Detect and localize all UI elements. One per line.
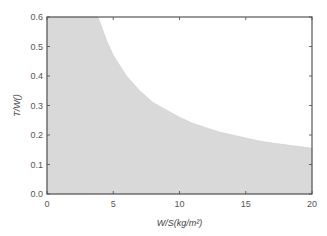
y-tick-label: 0.1 — [30, 160, 43, 170]
y-tick-label: 0.5 — [30, 42, 43, 52]
x-tick-label: 10 — [174, 199, 184, 209]
y-tick-label: 0.0 — [30, 189, 43, 199]
chart: 05101520 0.00.10.20.30.40.50.6 W/S(kg/m²… — [0, 0, 327, 236]
plot-area — [47, 17, 312, 194]
y-tick-label: 0.3 — [30, 101, 43, 111]
x-tick-label: 15 — [241, 199, 251, 209]
x-tick-label: 5 — [111, 199, 116, 209]
y-tick-label: 0.4 — [30, 71, 43, 81]
x-tick-labels: 05101520 — [44, 199, 317, 209]
x-axis-label: W/S(kg/m²) — [157, 218, 203, 228]
x-tick-label: 20 — [307, 199, 317, 209]
y-tick-labels: 0.00.10.20.30.40.50.6 — [30, 12, 43, 199]
x-tick-label: 0 — [44, 199, 49, 209]
y-tick-label: 0.2 — [30, 130, 43, 140]
shaded-feasible-region — [47, 17, 312, 194]
y-tick-label: 0.6 — [30, 12, 43, 22]
y-axis-label: T/W() — [12, 94, 22, 117]
